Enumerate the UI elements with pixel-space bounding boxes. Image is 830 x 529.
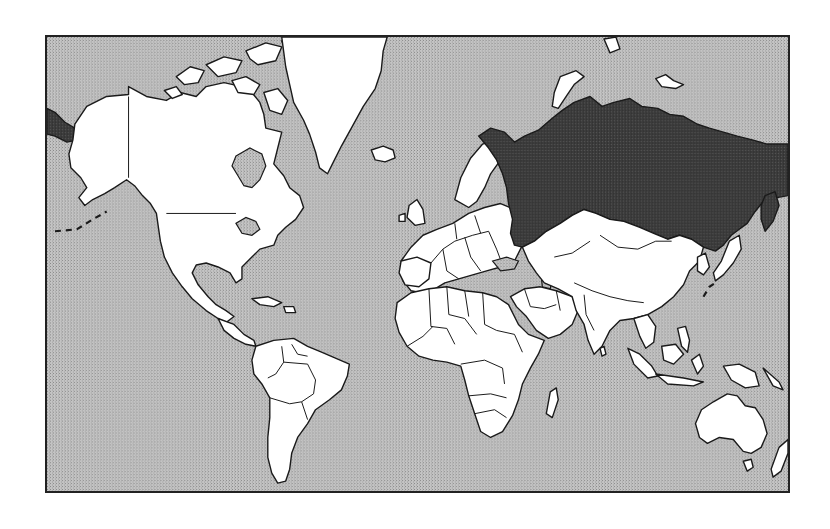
map-canvas (47, 37, 788, 491)
world-map (45, 35, 790, 493)
